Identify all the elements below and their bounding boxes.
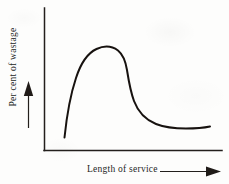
arrow-right-icon bbox=[160, 167, 221, 177]
arrow-up-icon bbox=[24, 81, 33, 128]
y-axis-label: Per cent of wastage bbox=[8, 24, 18, 110]
wastage-curve bbox=[65, 47, 211, 138]
wastage-curve-figure: Length of service Per cent of wastage bbox=[0, 0, 229, 184]
plot-area bbox=[0, 0, 229, 184]
x-axis-label: Length of service bbox=[87, 164, 158, 174]
